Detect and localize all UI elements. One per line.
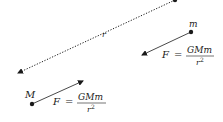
force-symbol: F: [161, 49, 170, 60]
distance-label: r: [102, 30, 107, 39]
gravitation-diagram: r m F = GMm r 2 M F = GMm r 2: [0, 0, 223, 122]
equals-sign: =: [65, 96, 73, 107]
numerator: GMm: [78, 92, 103, 102]
mass-M-label: M: [24, 89, 36, 100]
equals-sign: =: [174, 49, 182, 60]
force-equation-m: F = GMm r 2: [161, 45, 214, 67]
force-equation-M: F = GMm r 2: [52, 92, 106, 114]
distance-line: [18, 0, 175, 73]
distance-endpoint-dot: [173, 0, 177, 2]
numerator: GMm: [187, 45, 212, 55]
denominator-exponent: 2: [200, 56, 204, 63]
mass-m-label: m: [189, 19, 198, 29]
denominator-exponent: 2: [91, 103, 95, 110]
force-symbol: F: [52, 96, 61, 107]
